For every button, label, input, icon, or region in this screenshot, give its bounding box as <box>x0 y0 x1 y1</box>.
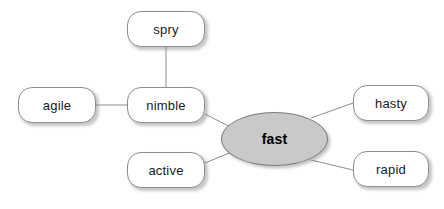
node-hasty[interactable]: hasty <box>353 85 429 121</box>
node-spry[interactable]: spry <box>127 11 205 47</box>
word-web-diagram: spry agile nimble active hasty rapid fas… <box>0 0 444 209</box>
node-agile[interactable]: agile <box>18 87 96 123</box>
node-active-label: active <box>148 164 183 177</box>
edge-fast-hasty <box>311 103 353 118</box>
edge-fast-rapid <box>311 160 353 170</box>
node-active[interactable]: active <box>127 152 205 188</box>
node-agile-label: agile <box>43 99 71 112</box>
node-fast-label: fast <box>262 132 288 146</box>
node-spry-label: spry <box>153 23 178 36</box>
node-nimble[interactable]: nimble <box>127 87 205 123</box>
node-fast-center[interactable]: fast <box>221 112 328 166</box>
node-hasty-label: hasty <box>375 97 407 110</box>
node-rapid[interactable]: rapid <box>353 151 429 187</box>
node-nimble-label: nimble <box>146 99 186 112</box>
node-rapid-label: rapid <box>376 163 406 176</box>
